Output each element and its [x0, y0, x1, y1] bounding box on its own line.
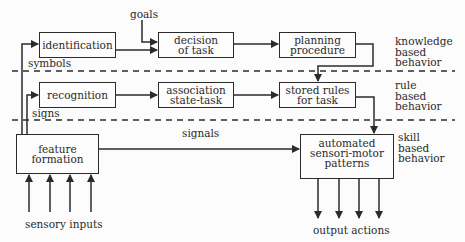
- sensory-inputs-label: sensory inputs: [25, 219, 103, 230]
- goals-label: goals: [130, 9, 158, 20]
- identification-box: identification: [39, 32, 116, 58]
- output-actions-label: output actions: [313, 225, 390, 236]
- automated-sensori-motor-box: automated sensori-motor patterns: [300, 134, 394, 179]
- decision-of-task-box: decision of task: [158, 32, 234, 58]
- skill-based-behavior-label: skill based behavior: [398, 132, 445, 164]
- planning-procedure-box: planning procedure: [279, 32, 356, 58]
- knowledge-based-behavior-label: knowledge based behavior: [395, 36, 453, 68]
- signs-label: signs: [32, 108, 60, 119]
- stored-rules-box: stored rules for task: [279, 82, 356, 108]
- association-state-task-box: association state-task: [158, 82, 234, 108]
- feature-formation-box: feature formation: [16, 134, 99, 174]
- rule-based-behavior-label: rule based behavior: [395, 80, 442, 112]
- recognition-box: recognition: [39, 82, 116, 108]
- symbols-label: symbols: [28, 58, 71, 69]
- signals-label: signals: [182, 128, 219, 139]
